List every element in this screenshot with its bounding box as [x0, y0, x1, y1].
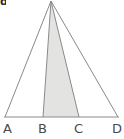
vertex-label-b: B	[38, 122, 47, 135]
figure-canvas: d A B C D	[0, 0, 124, 139]
vertex-label-a: A	[3, 122, 12, 135]
corner-crop-mark: d	[0, 0, 6, 6]
vertex-label-d: D	[112, 122, 122, 135]
geometry-diagram	[0, 0, 124, 139]
vertex-label-c: C	[74, 122, 83, 135]
